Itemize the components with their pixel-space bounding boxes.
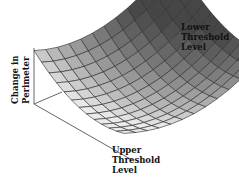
upper-label-line3: Level [112,165,160,175]
lower-label-line1: Lower [181,22,229,32]
lower-threshold-axis-line [34,92,62,104]
z-axis-label-line2: Perimeter [21,58,32,104]
z-axis-label-line1: Change in [10,58,21,104]
lower-label-line2: Threshold [181,32,229,42]
upper-label-line1: Upper [112,145,160,155]
surface-plot-figure: Change in Perimeter Lower Threshold Leve… [0,0,239,181]
upper-threshold-label: Upper Threshold Level [112,145,160,175]
lower-label-line3: Level [181,42,229,52]
z-axis-label: Change in Perimeter [10,58,36,104]
lower-threshold-label: Lower Threshold Level [181,22,229,52]
upper-label-line2: Threshold [112,155,160,165]
